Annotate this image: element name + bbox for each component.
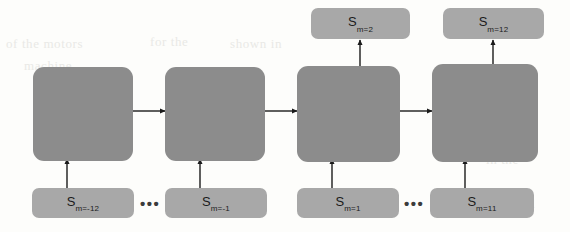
input-state-box-1[interactable]: Sm=-12: [32, 188, 134, 218]
input-state-label-4: Sm=11: [467, 195, 496, 212]
cell-3[interactable]: [297, 66, 400, 162]
output-state-box-1[interactable]: Sm=2: [311, 8, 410, 39]
input-state-label-3: Sm=1: [335, 195, 360, 212]
output-state-label-2: Sm=12: [479, 15, 509, 32]
input-state-label-1: Sm=-12: [67, 195, 100, 212]
input-state-box-4[interactable]: Sm=11: [430, 188, 534, 218]
input-state-label-2: Sm=-1: [202, 195, 230, 212]
output-state-box-2[interactable]: Sm=12: [443, 8, 544, 39]
cell-2[interactable]: [165, 67, 265, 161]
rnn-unrolled-diagram: of the motors for the shown in machine i…: [0, 0, 570, 232]
cell-1[interactable]: [33, 67, 133, 161]
cell-4[interactable]: [432, 64, 538, 162]
output-state-label-1: Sm=2: [348, 15, 373, 32]
ellipsis-2: •••: [404, 196, 424, 211]
input-state-box-2[interactable]: Sm=-1: [165, 188, 267, 218]
input-state-box-3[interactable]: Sm=1: [297, 188, 399, 218]
ellipsis-1: •••: [140, 196, 160, 211]
